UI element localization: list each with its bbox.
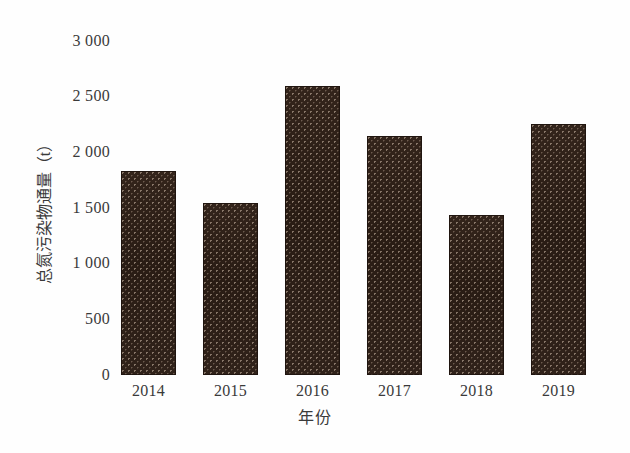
x-tick-2015: 2015 (198, 381, 263, 400)
bar-2016 (285, 86, 340, 375)
y-tick-2000: 2 000 (73, 144, 111, 160)
x-tick-2016: 2016 (280, 381, 345, 400)
x-axis-tick-labels: 2014 2015 2016 2017 2018 2019 (113, 381, 610, 405)
y-tick-2500: 2 500 (73, 88, 111, 104)
y-tick-1500: 1 500 (73, 200, 111, 216)
bar-2017 (367, 136, 422, 375)
y-tick-3000: 3 000 (73, 33, 111, 49)
bar-2018 (449, 215, 504, 375)
bar-slot-2016 (285, 41, 340, 375)
bar-2014 (121, 171, 176, 375)
y-tick-500: 500 (85, 311, 110, 327)
y-tick-0: 0 (102, 367, 110, 383)
x-tick-2018: 2018 (444, 381, 509, 400)
bar-2015 (203, 203, 258, 375)
plot-area (113, 41, 610, 375)
bar-slot-2015 (203, 41, 258, 375)
bar-slot-2017 (367, 41, 422, 375)
bar-slot-2014 (121, 41, 176, 375)
x-tick-2014: 2014 (116, 381, 181, 400)
bar-chart-figure: 3 000 2 500 2 000 1 500 1 000 500 0 总氮污染… (0, 0, 630, 453)
bar-slot-2019 (531, 41, 586, 375)
y-axis-title: 总氮污染物通量（t） (31, 105, 55, 315)
y-tick-1000: 1 000 (73, 255, 111, 271)
bar-2019 (531, 124, 586, 375)
bar-slot-2018 (449, 41, 504, 375)
x-tick-2017: 2017 (362, 381, 427, 400)
x-tick-2019: 2019 (526, 381, 591, 400)
x-axis-title: 年份 (0, 404, 630, 428)
